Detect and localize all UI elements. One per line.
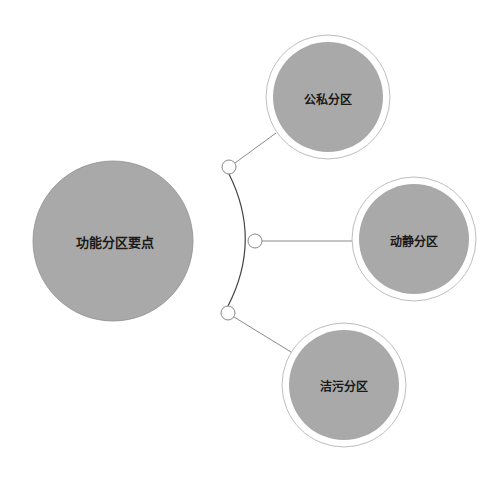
connector-line-3 bbox=[234, 317, 291, 352]
junction-node-1 bbox=[222, 160, 236, 174]
junction-node-3 bbox=[221, 306, 235, 320]
connector-arc bbox=[228, 174, 245, 306]
center-label: 功能分区要点 bbox=[76, 232, 154, 251]
connector-line-1 bbox=[235, 133, 276, 163]
branch-label-dynamic-static: 动静分区 bbox=[390, 232, 438, 249]
branch-label-public-private: 公私分区 bbox=[304, 90, 352, 107]
junction-node-2 bbox=[248, 234, 262, 248]
branch-label-clean-dirty: 洁污分区 bbox=[320, 377, 368, 394]
